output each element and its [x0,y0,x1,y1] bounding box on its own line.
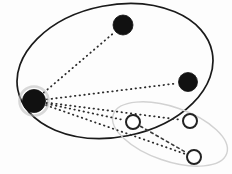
hollow-node-bottom[interactable] [187,150,201,164]
diagram-canvas [0,0,232,174]
filled-node-right[interactable] [179,73,198,92]
edge-left-to-right[interactable] [47,83,177,99]
edge-layer [44,32,187,154]
diagram-svg [0,0,232,174]
edge-left-to-top[interactable] [44,32,114,92]
filled-node-top[interactable] [113,15,133,35]
hollow-node-center[interactable] [126,115,140,129]
edge-hollow-center-to-hollow-bottom[interactable] [140,126,186,153]
filled-node-left[interactable] [23,90,46,113]
hollow-node-right[interactable] [183,114,197,128]
secondary-ellipse[interactable] [104,89,232,174]
